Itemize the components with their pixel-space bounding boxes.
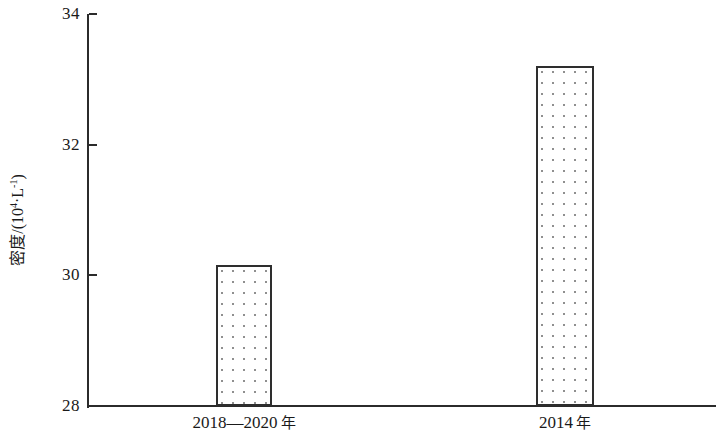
y-axis-title-exponent: 4: [8, 203, 19, 208]
y-tick-mark: [89, 144, 97, 146]
y-tick-label: 34: [30, 5, 80, 22]
x-axis-line: [87, 405, 716, 407]
y-axis-title-prefix: 密度/(10: [9, 208, 26, 266]
x-axis-label-number: 2018—2020: [193, 413, 278, 432]
y-axis-title-exponent-2: -1: [8, 180, 19, 188]
x-axis-label-number: 2014: [539, 413, 573, 432]
y-axis-title-middle: ·L: [9, 188, 26, 203]
y-tick-mark: [89, 13, 97, 15]
y-tick-label: 32: [30, 136, 80, 153]
bar: [216, 265, 272, 406]
bar-chart: 28303234 密度/(104·L-1) 2018—2020年2014年: [0, 0, 722, 438]
y-tick-label: 30: [30, 266, 80, 283]
bar: [536, 66, 594, 406]
y-tick-mark: [89, 405, 97, 407]
y-tick-label-text: 34: [34, 5, 80, 22]
y-tick-label: 28: [30, 397, 80, 414]
y-axis-title: 密度/(104·L-1): [8, 110, 28, 330]
y-axis-title-suffix: ): [9, 174, 26, 179]
y-tick-label-text: 32: [34, 136, 80, 153]
x-axis-label-unit: 年: [278, 414, 296, 432]
y-axis-line: [87, 14, 89, 408]
y-tick-mark: [89, 274, 97, 276]
x-axis-category-label: 2018—2020年: [134, 412, 354, 434]
y-tick-label-text: 28: [34, 397, 80, 414]
x-axis-label-unit: 年: [573, 414, 591, 432]
y-tick-label-text: 30: [34, 266, 80, 283]
x-axis-category-label: 2014年: [455, 412, 675, 434]
